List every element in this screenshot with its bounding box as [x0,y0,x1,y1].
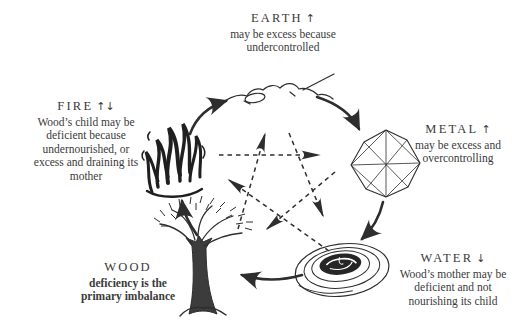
fire-caption-line: excess and draining its [3,156,169,170]
metal-title-text: METAL [425,122,478,136]
earth-title: EARTH↑ [185,12,381,26]
water-title: WATER↓ [383,252,523,266]
generating-cycle-arrows [182,97,383,280]
fire-caption-line: undernourished, or [3,143,169,157]
earth-label: EARTH↑ may be excess because undercontro… [185,12,381,55]
water-caption-line: deficient and not [383,281,523,295]
wood-label: WOOD deficiency is the primary imbalance [53,261,203,304]
earth-caption-line: undercontrolled [185,41,381,55]
water-caption-line: nourishing its child [383,295,523,309]
fire-label: FIRE↑↓ Wood’s child may be deficient bec… [3,100,169,184]
up-arrow-icon: ↑ [306,12,315,25]
metal-label: METAL↑ may be excess and overcontrolling [393,123,523,166]
fire-title-text: FIRE [57,99,93,113]
mountain-ridge-icon [219,74,334,105]
water-label: WATER↓ Wood’s mother may be deficient an… [383,252,523,308]
arrow-water-to-fire [229,180,329,251]
water-title-text: WATER [421,251,474,265]
water-caption-line: Wood’s mother may be [383,268,523,282]
arrow-earth-to-water [289,133,323,216]
whirlpool-icon [292,238,392,301]
earth-title-text: EARTH [251,11,303,25]
five-elements-diagram: EARTH↑ may be excess because undercontro… [0,0,531,323]
metal-caption-line: overcontrolling [393,152,523,166]
earth-caption-line: may be excess because [185,28,381,42]
wood-title: WOOD [53,261,203,275]
arrow-metal-to-water [362,202,383,239]
wood-emphasis-line: primary imbalance [53,290,203,304]
up-arrow-icon: ↑ [481,123,490,136]
fire-caption-line: mother [3,170,169,184]
arrow-earth-to-metal [317,97,359,129]
arrow-fire-to-earth [190,101,226,134]
wood-title-text: WOOD [104,260,152,274]
metal-title: METAL↑ [393,123,523,137]
down-arrow-icon: ↓ [476,252,485,265]
arrow-metal-to-wood [267,172,335,229]
arrow-water-to-wood [242,275,302,280]
wood-emphasis-line: deficiency is the [53,277,203,291]
fire-title: FIRE↑↓ [3,100,169,114]
fire-caption-line: Wood’s child may be [3,116,169,130]
fire-caption-line: deficient because [3,129,169,143]
metal-caption-line: may be excess and [393,139,523,153]
up-down-arrows-icon: ↑↓ [96,100,114,113]
